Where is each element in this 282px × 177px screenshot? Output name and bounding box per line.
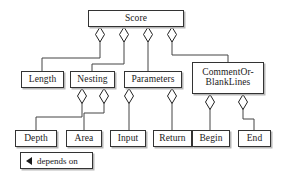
- aggregation-diamond-icon: [239, 95, 248, 110]
- edge-parameters-to-return: [168, 88, 177, 130]
- node-depth[interactable]: Depth: [15, 130, 57, 147]
- edge-nesting-to-area: [84, 88, 109, 130]
- left-triangle-icon: [26, 157, 32, 165]
- node-end[interactable]: End: [238, 130, 271, 147]
- legend-label: depends on: [37, 156, 78, 166]
- node-label: Return: [159, 134, 185, 144]
- node-parameters[interactable]: Parameters: [124, 71, 182, 88]
- node-label: Area: [75, 134, 94, 144]
- aggregation-diamond-icon: [125, 89, 134, 104]
- edge-parameters-to-input: [125, 88, 134, 130]
- node-score[interactable]: Score: [88, 10, 184, 27]
- aggregation-diamond-icon: [100, 89, 109, 104]
- connector-line: [172, 27, 228, 62]
- node-nesting[interactable]: Nesting: [70, 71, 115, 88]
- aggregation-diamond-icon: [144, 27, 153, 42]
- edge-comment-or-blank-lines-to-begin: [206, 94, 215, 130]
- class-diagram: ScoreLengthNestingParametersCommentOr- B…: [0, 0, 282, 177]
- aggregation-diamond-icon: [206, 95, 215, 110]
- aggregation-diamond-icon: [168, 27, 177, 42]
- edge-score-to-comment-or-blank-lines: [168, 27, 229, 62]
- edge-comment-or-blank-lines-to-end: [239, 94, 255, 130]
- legend-depends-on: depends on: [20, 152, 93, 169]
- edge-score-to-parameters: [144, 27, 153, 71]
- node-label: Input: [118, 134, 139, 144]
- node-comment-or-blank-lines[interactable]: CommentOr- BlankLines: [192, 62, 264, 94]
- connector-line: [36, 88, 82, 130]
- node-label: Length: [29, 75, 57, 85]
- edge-nesting-to-depth: [36, 88, 87, 130]
- aggregation-diamond-icon: [120, 27, 129, 42]
- node-input[interactable]: Input: [110, 130, 146, 147]
- connector-line: [42, 27, 100, 71]
- node-label: Score: [125, 14, 147, 24]
- aggregation-diamond-icon: [96, 27, 105, 42]
- node-label: CommentOr- BlankLines: [202, 68, 253, 88]
- node-label: Nesting: [77, 75, 107, 85]
- node-begin[interactable]: Begin: [192, 130, 230, 147]
- node-area[interactable]: Area: [66, 130, 102, 147]
- node-label: Parameters: [131, 75, 174, 85]
- aggregation-diamond-icon: [168, 89, 177, 104]
- node-return[interactable]: Return: [153, 130, 192, 147]
- node-label: Depth: [24, 134, 48, 144]
- node-label: Begin: [199, 134, 222, 144]
- node-length[interactable]: Length: [21, 71, 64, 88]
- node-label: End: [247, 134, 263, 144]
- aggregation-diamond-icon: [78, 89, 87, 104]
